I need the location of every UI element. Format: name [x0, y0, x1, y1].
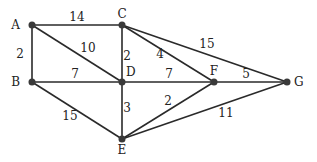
edge-weight-c-g: 15: [199, 37, 214, 51]
node-label-b: B: [11, 75, 20, 89]
node-d: [119, 79, 126, 86]
edge-weight-e-g: 11: [218, 106, 233, 120]
node-g: [284, 79, 291, 86]
node-a: [29, 22, 36, 29]
edge-e-g: [122, 82, 287, 139]
edge-weight-c-f: 4: [156, 47, 164, 61]
node-label-e: E: [118, 143, 127, 157]
edge-weight-f-g: 5: [242, 67, 250, 81]
node-b: [29, 79, 36, 86]
edge-weight-a-d: 10: [80, 41, 95, 55]
node-e: [119, 136, 126, 143]
edge-weight-e-f: 2: [164, 94, 172, 108]
weighted-graph: 142102415775153211 ABCDEFG: [0, 0, 317, 162]
node-f: [211, 79, 218, 86]
edge-weight-d-f: 7: [165, 67, 173, 81]
edge-weight-b-d: 7: [71, 67, 79, 81]
node-label-f: F: [210, 64, 218, 78]
edge-e-f: [122, 82, 214, 139]
node-label-a: A: [10, 18, 20, 32]
node-label-d: D: [126, 65, 136, 79]
edge-weight-a-c: 14: [69, 10, 85, 24]
edge-weight-b-e: 15: [62, 109, 77, 123]
edge-c-g: [122, 25, 287, 82]
node-label-c: C: [117, 7, 126, 21]
node-label-g: G: [294, 75, 304, 89]
node-c: [119, 22, 126, 29]
edge-weight-d-e: 3: [123, 101, 131, 115]
edge-weight-c-d: 2: [123, 49, 131, 63]
edge-weight-a-b: 2: [16, 47, 24, 61]
